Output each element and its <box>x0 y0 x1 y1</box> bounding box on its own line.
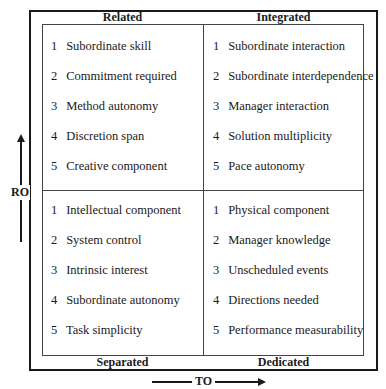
list-item: 5 Creative component <box>51 151 177 181</box>
list-item: 1 Intellectual component <box>51 195 181 225</box>
list-item: 1 Subordinate skill <box>51 31 177 61</box>
quadrant-label-separated: Separated <box>42 355 203 369</box>
list-item: 3 Method autonomy <box>51 91 177 121</box>
dedicated-item-list: 1 Physical component 2 Manager knowledge… <box>213 195 363 345</box>
list-item: 2 Subordinate interdependence <box>213 61 374 91</box>
quadrant-label-dedicated: Dedicated <box>204 355 363 369</box>
to-axis-label: TO <box>192 374 215 389</box>
quadrant-label-related: Related <box>42 10 203 24</box>
horizontal-divider <box>42 190 363 191</box>
list-item: 1 Physical component <box>213 195 363 225</box>
list-item: 3 Manager interaction <box>213 91 374 121</box>
integrated-item-list: 1 Subordinate interaction 2 Subordinate … <box>213 31 374 181</box>
list-item: 2 System control <box>51 225 181 255</box>
list-item: 5 Task simplicity <box>51 315 181 345</box>
arrow-right-icon <box>258 378 266 386</box>
list-item: 2 Manager knowledge <box>213 225 363 255</box>
quadrant-label-integrated: Integrated <box>204 10 363 24</box>
list-item: 4 Solution multiplicity <box>213 121 374 151</box>
list-item: 1 Subordinate interaction <box>213 31 374 61</box>
list-item: 3 Intrinsic interest <box>51 255 181 285</box>
list-item: 4 Discretion span <box>51 121 177 151</box>
related-item-list: 1 Subordinate skill 2 Commitment require… <box>51 31 177 181</box>
list-item: 5 Performance measurability <box>213 315 363 345</box>
list-item: 3 Unscheduled events <box>213 255 363 285</box>
list-item: 4 Directions needed <box>213 285 363 315</box>
ro-axis-label: RO <box>10 185 30 200</box>
separated-item-list: 1 Intellectual component 2 System contro… <box>51 195 181 345</box>
arrow-up-icon <box>17 134 25 142</box>
list-item: 2 Commitment required <box>51 61 177 91</box>
list-item: 5 Pace autonomy <box>213 151 374 181</box>
list-item: 4 Subordinate autonomy <box>51 285 181 315</box>
